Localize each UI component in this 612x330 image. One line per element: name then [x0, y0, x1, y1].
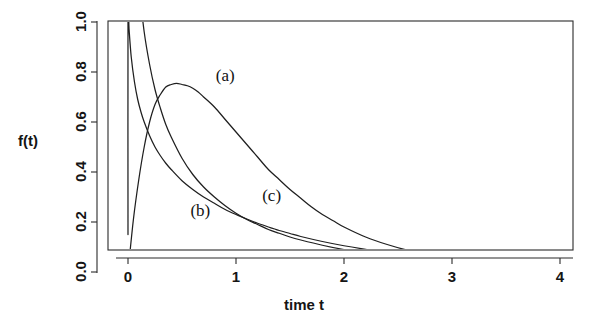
curve-a: [128, 83, 592, 272]
curve-annotation-b: (b): [190, 201, 210, 221]
curve-annotation-c: (c): [262, 186, 281, 206]
x-tick-label-0: 0: [124, 268, 132, 285]
curve-c: [128, 0, 592, 262]
y-tick-label-3: 0.6: [72, 105, 89, 139]
plot-frame-box: [108, 21, 573, 250]
y-tick-label-2: 0.4: [72, 155, 89, 189]
x-tick-label-1: 1: [232, 268, 240, 285]
figure-canvas: 012340.00.20.40.60.81.0 f(t) time t (a)(…: [0, 0, 612, 330]
curves-group: [128, 0, 592, 272]
y-tick-label-5: 1.0: [72, 5, 89, 39]
x-tick-label-3: 3: [448, 268, 456, 285]
x-tick-label-4: 4: [556, 268, 564, 285]
x-tick-label-2: 2: [340, 268, 348, 285]
y-axis-title: f(t): [18, 132, 38, 149]
y-tick-label-1: 0.2: [72, 205, 89, 239]
curve-annotation-a: (a): [216, 66, 235, 86]
plot-svg: [0, 0, 612, 330]
x-axis-title: time t: [284, 296, 324, 313]
y-tick-label-4: 0.8: [72, 55, 89, 89]
y-tick-label-0: 0.0: [72, 255, 89, 289]
curve-b: [128, 0, 592, 264]
